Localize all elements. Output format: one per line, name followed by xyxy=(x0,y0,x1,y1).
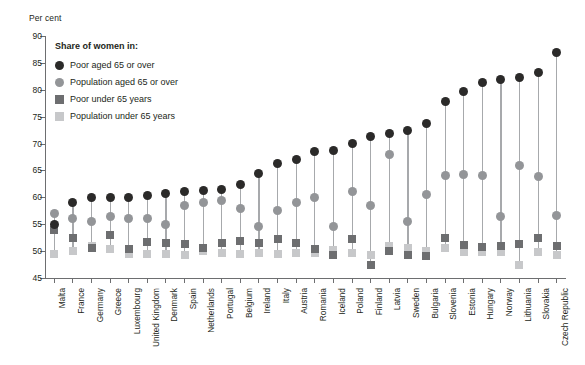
x-axis-category-label: Slovenia xyxy=(448,288,458,320)
data-point-marker xyxy=(236,250,244,258)
data-point-marker xyxy=(88,244,96,252)
data-point-marker xyxy=(478,78,487,87)
data-point-marker xyxy=(255,239,263,247)
category-stem-line xyxy=(500,79,501,252)
data-point-marker xyxy=(218,239,226,247)
y-axis-tick-label: 80 xyxy=(33,85,42,95)
x-axis-category-label: Denmark xyxy=(169,288,179,322)
data-point-marker xyxy=(50,220,59,229)
x-axis-category-label: Estonia xyxy=(467,288,477,316)
data-point-marker xyxy=(534,68,543,77)
data-point-marker xyxy=(217,185,226,194)
y-axis-tick-label: 75 xyxy=(33,112,42,122)
x-axis-category-label: Austria xyxy=(299,288,309,314)
x-axis-category-label: Sweden xyxy=(411,288,421,318)
chart-legend: Share of women in: Poor aged 65 or overP… xyxy=(55,36,265,125)
data-point-marker xyxy=(553,242,561,250)
x-axis-category-label: Romania xyxy=(318,288,328,321)
data-point-marker xyxy=(348,235,356,243)
data-point-marker xyxy=(422,190,431,199)
x-axis-category-label: Hungary xyxy=(485,288,495,319)
data-point-marker xyxy=(311,245,319,253)
data-point-marker xyxy=(478,243,486,251)
data-point-marker xyxy=(292,249,300,257)
x-axis-tick-mark xyxy=(538,278,539,283)
x-axis-tick-mark xyxy=(314,278,315,283)
y-axis-tick-label: 65 xyxy=(33,165,42,175)
data-point-marker xyxy=(181,251,189,259)
legend-swatch-circle-icon xyxy=(55,78,64,87)
x-axis-tick-mark xyxy=(426,278,427,283)
x-axis-category-label: Slovakia xyxy=(541,288,551,319)
data-point-marker xyxy=(162,239,170,247)
x-axis-category-label: Lithuania xyxy=(523,288,533,322)
legend-item: Population aged 65 or over xyxy=(55,74,265,90)
data-point-marker xyxy=(460,241,468,249)
x-axis-tick-mark xyxy=(296,278,297,283)
legend-items: Poor aged 65 or overPopulation aged 65 o… xyxy=(55,57,265,124)
data-point-marker xyxy=(236,204,245,213)
data-point-marker xyxy=(478,171,487,180)
y-axis-tick-label: 85 xyxy=(33,58,42,68)
x-axis-tick-mark xyxy=(352,278,353,283)
data-point-marker xyxy=(254,169,263,178)
data-point-marker xyxy=(199,198,208,207)
data-point-marker xyxy=(496,75,505,84)
x-axis-line xyxy=(45,278,566,279)
data-point-marker xyxy=(310,147,319,156)
x-axis-tick-mark xyxy=(72,278,73,283)
data-point-marker xyxy=(199,186,208,195)
y-axis-tick-label: 55 xyxy=(33,219,42,229)
data-point-marker xyxy=(348,139,357,148)
category-stem-line xyxy=(110,197,111,249)
x-axis-tick-mark xyxy=(221,278,222,283)
x-axis-tick-mark xyxy=(184,278,185,283)
y-axis-tick-label: 70 xyxy=(33,139,42,149)
data-point-marker xyxy=(366,201,375,210)
data-point-marker xyxy=(348,249,356,257)
data-point-marker xyxy=(162,250,170,258)
x-axis-tick-mark xyxy=(463,278,464,283)
data-point-marker xyxy=(459,170,468,179)
data-point-marker xyxy=(292,198,301,207)
data-point-marker xyxy=(106,245,114,253)
data-point-marker xyxy=(459,87,468,96)
data-point-marker xyxy=(404,251,412,259)
legend-swatch-circle-icon xyxy=(55,61,64,70)
data-point-marker xyxy=(124,214,133,223)
data-point-marker xyxy=(161,220,170,229)
x-axis-category-label: Belgium xyxy=(244,288,254,318)
data-point-marker xyxy=(497,242,505,250)
legend-item: Population under 65 years xyxy=(55,108,265,124)
x-axis-category-label: Bulgaria xyxy=(430,288,440,318)
data-point-marker xyxy=(106,212,115,221)
data-point-marker xyxy=(460,248,468,256)
data-point-marker xyxy=(367,261,375,269)
legend-swatch-square-icon xyxy=(55,112,64,121)
x-axis-category-label: Malta xyxy=(57,288,67,308)
x-axis-tick-mark xyxy=(519,278,520,283)
x-axis-category-label: Ireland xyxy=(262,288,272,313)
data-point-marker xyxy=(106,231,114,239)
data-point-marker xyxy=(329,222,338,231)
x-axis-category-label: United Kingdom xyxy=(151,288,161,347)
data-point-marker xyxy=(87,193,96,202)
data-point-marker xyxy=(255,249,263,257)
data-point-marker xyxy=(403,217,412,226)
data-point-marker xyxy=(254,222,263,231)
data-point-marker xyxy=(292,155,301,164)
data-point-marker xyxy=(515,261,523,269)
data-point-marker xyxy=(143,214,152,223)
data-point-marker xyxy=(441,244,449,252)
legend-item-label: Poor aged 65 or over xyxy=(70,60,155,70)
data-point-marker xyxy=(273,206,282,215)
x-axis-category-label: Luxembourg xyxy=(132,288,142,334)
x-axis-tick-mark xyxy=(556,278,557,283)
data-point-marker xyxy=(68,198,77,207)
x-axis-category-label: Iceland xyxy=(337,288,347,315)
category-stem-line xyxy=(556,52,557,255)
data-point-marker xyxy=(68,214,77,223)
x-axis-tick-mark xyxy=(91,278,92,283)
data-point-marker xyxy=(180,187,189,196)
data-point-marker xyxy=(534,172,543,181)
